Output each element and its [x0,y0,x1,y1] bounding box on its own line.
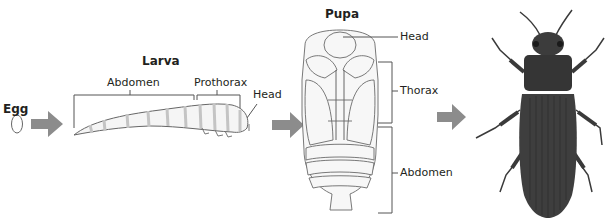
stage-title-pupa: Pupa [325,7,359,21]
stage-title-egg: Egg [3,102,28,116]
larva-label-abdomen: Abdomen [107,76,160,89]
pupa-label-abdomen: Abdomen [400,166,453,179]
egg-icon [12,115,23,133]
pupa-label-head: Head [400,30,429,43]
larva-label-prothorax: Prothorax [194,76,247,89]
pupa-body-icon [302,30,378,210]
life-cycle-artwork [0,0,610,224]
pupa-label-thorax: Thorax [400,84,438,97]
larva-body-icon [74,103,249,137]
arrow-larva-to-pupa-icon [272,112,304,138]
arrow-pupa-to-adult-icon [437,104,466,130]
stage-title-larva: Larva [142,54,180,68]
arrow-egg-to-larva-icon [31,111,63,137]
adult-beetle-icon [476,10,604,218]
larva-label-head: Head [253,88,282,101]
